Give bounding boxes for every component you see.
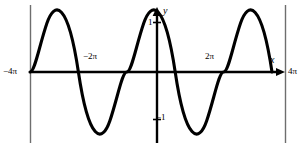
y-axis-label: y: [163, 6, 167, 16]
x-bound-label-4pi: 4π: [288, 67, 297, 76]
x-tick-label-2pi: 2π: [205, 52, 214, 61]
x-bound-label-negative-4pi: −4π: [3, 67, 17, 76]
x-axis-label: x: [270, 55, 274, 65]
x-axis-arrow-icon: [276, 68, 285, 76]
y-tick-label-negative-1: −1: [156, 113, 166, 122]
sine-wave-figure: y x 1 −1 −2π 2π −4π 4π: [0, 0, 304, 149]
x-tick-label-negative-2pi: −2π: [83, 52, 97, 61]
y-tick-label-1: 1: [148, 18, 153, 27]
